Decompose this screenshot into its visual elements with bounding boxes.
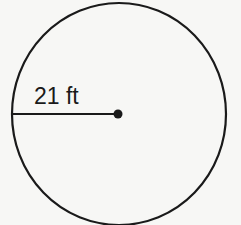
radius-label: 21 ft: [34, 85, 79, 108]
circle-diagram: 21 ft: [0, 0, 241, 225]
center-point: [114, 110, 123, 119]
circle-figure: [0, 0, 241, 225]
